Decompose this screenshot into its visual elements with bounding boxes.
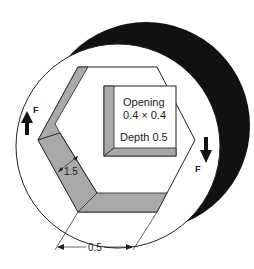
force-right-label: F	[195, 164, 201, 174]
force-left-label: F	[33, 105, 39, 115]
depth-label: Depth 0.5	[120, 131, 168, 143]
opening-label: Opening	[123, 96, 165, 108]
opening-size-label: 0.4 × 0.4	[123, 109, 166, 121]
hex-socket-diagram: Opening 0.4 × 0.4 Depth 0.5 F F 1.5 0.5	[0, 0, 254, 269]
thickness-label: 1.5	[64, 166, 78, 177]
diagram-canvas: Opening 0.4 × 0.4 Depth 0.5 F F 1.5 0.5	[0, 0, 254, 269]
bottom-dimension-label: 0.5	[88, 242, 102, 253]
